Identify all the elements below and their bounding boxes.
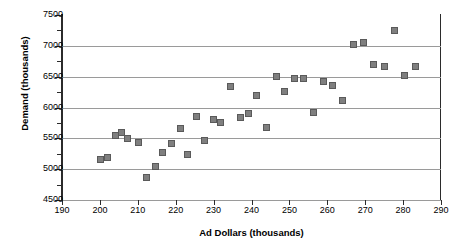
data-point — [381, 63, 388, 70]
x-tick-label-250: 250 — [274, 206, 304, 215]
data-point — [370, 61, 377, 68]
data-point — [300, 75, 307, 82]
data-point — [245, 110, 252, 117]
data-point — [339, 97, 346, 104]
y-tick-label-5500: 5500 — [29, 133, 63, 142]
data-point — [273, 73, 280, 80]
data-point — [291, 75, 298, 82]
data-point — [193, 113, 200, 120]
data-point — [177, 125, 184, 132]
data-point — [135, 139, 142, 146]
data-point — [412, 63, 419, 70]
x-tick-label-240: 240 — [237, 206, 267, 215]
data-point — [184, 151, 191, 158]
data-point — [210, 116, 217, 123]
data-point — [263, 124, 270, 131]
x-axis-title: Ad Dollars (thousands) — [62, 227, 441, 238]
gridline-6000 — [62, 108, 441, 109]
x-tick-label-260: 260 — [312, 206, 342, 215]
x-tick-label-290: 290 — [426, 206, 455, 215]
x-tick-label-280: 280 — [388, 206, 418, 215]
data-point — [168, 140, 175, 147]
y-minor-tick-4750 — [57, 185, 62, 186]
data-point — [360, 39, 367, 46]
data-point — [227, 83, 234, 90]
data-point — [401, 72, 408, 79]
x-tick-label-220: 220 — [161, 206, 191, 215]
data-point — [320, 78, 327, 85]
data-point — [253, 92, 260, 99]
x-tick-label-210: 210 — [123, 206, 153, 215]
y-tick-label-6000: 6000 — [29, 103, 63, 112]
gridline-6500 — [62, 77, 441, 78]
y-minor-tick-6750 — [57, 61, 62, 62]
data-point — [143, 174, 150, 181]
scatter-chart: 4500500055006000650070007500 19020021022… — [0, 0, 455, 249]
data-point — [201, 137, 208, 144]
y-minor-tick-5250 — [57, 154, 62, 155]
data-point — [104, 154, 111, 161]
y-tick-label-6500: 6500 — [29, 72, 63, 81]
x-tick-label-190: 190 — [47, 206, 77, 215]
y-tick-label-7500: 7500 — [29, 10, 63, 19]
y-minor-tick-7250 — [57, 30, 62, 31]
data-point — [310, 109, 317, 116]
data-point — [152, 163, 159, 170]
data-point — [237, 114, 244, 121]
data-point — [281, 88, 288, 95]
y-tick-label-4500: 4500 — [29, 195, 63, 204]
y-axis-title: Demand (thousands) — [19, 14, 30, 154]
x-tick-label-270: 270 — [350, 206, 380, 215]
gridline-5000 — [62, 169, 441, 170]
gridline-7000 — [62, 46, 441, 47]
data-point — [124, 135, 131, 142]
x-tick-label-200: 200 — [85, 206, 115, 215]
data-point — [329, 82, 336, 89]
x-tick-label-230: 230 — [199, 206, 229, 215]
data-point — [391, 27, 398, 34]
y-tick-label-7000: 7000 — [29, 41, 63, 50]
y-tick-label-5000: 5000 — [29, 164, 63, 173]
data-point — [159, 149, 166, 156]
data-point — [217, 119, 224, 126]
data-point — [350, 41, 357, 48]
y-minor-tick-5750 — [57, 123, 62, 124]
y-minor-tick-6250 — [57, 92, 62, 93]
